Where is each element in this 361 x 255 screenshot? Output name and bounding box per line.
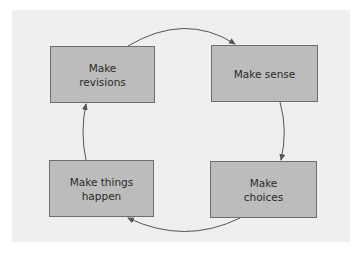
node-label: Make sense (234, 67, 296, 81)
node-label: Make things happen (70, 175, 133, 203)
arrow-choices-to-happen (128, 218, 240, 232)
node-make-revisions: Make revisions (50, 46, 155, 103)
arrow-sense-to-choices (280, 102, 284, 160)
arrow-happen-to-revisions (83, 104, 86, 160)
node-make-sense: Make sense (211, 45, 318, 102)
node-make-choices: Make choices (210, 161, 317, 218)
node-label: Make choices (244, 176, 283, 204)
node-label: Make revisions (79, 61, 126, 89)
arrow-revisions-to-sense (128, 28, 235, 46)
node-make-things-happen: Make things happen (49, 160, 154, 217)
